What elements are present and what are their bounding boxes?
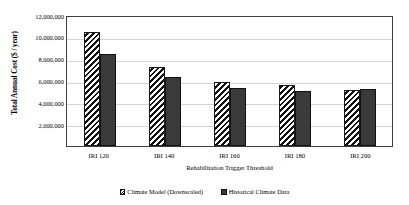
bar-group (197, 17, 262, 146)
legend-swatch-model-icon (120, 189, 126, 195)
bar-model[interactable] (344, 90, 360, 146)
legend-entry[interactable]: Climate Model (Downscaled) (120, 188, 203, 196)
bar-model[interactable] (214, 82, 230, 146)
y-axis-tick-label: 2,000,000 (18, 122, 64, 129)
y-axis-tick-label: 8,000,000 (18, 56, 64, 63)
y-axis-tick-label: 4,000,000 (18, 100, 64, 107)
y-axis-tick-labels: 2,000,0004,000,0006,000,0008,000,00010,0… (18, 12, 64, 148)
y-axis-tick-label: 10,000,000 (18, 34, 64, 41)
bar-chart-figure: Total Annual Cost ($ / year) 2,000,0004,… (0, 0, 409, 205)
x-axis-tick-label: IRI 180 (262, 151, 327, 161)
chart-legend: Climate Model (Downscaled)Historical Cli… (0, 188, 409, 196)
x-axis-tick-label: IRI 160 (197, 151, 262, 161)
bar-group (132, 17, 197, 146)
bar-group (67, 17, 132, 146)
bar-historical[interactable] (230, 88, 246, 146)
x-axis-title: Rehabilitation Trigger Threshold (66, 163, 393, 172)
legend-label: Historical Climate Data (229, 188, 290, 196)
plot-area (66, 16, 393, 147)
bar-group (262, 17, 327, 146)
x-axis-tick-label: IRI 120 (66, 151, 131, 161)
bar-model[interactable] (149, 67, 165, 146)
bar-historical[interactable] (295, 91, 311, 146)
bar-historical[interactable] (100, 54, 116, 146)
bar-historical[interactable] (360, 89, 376, 146)
bar-groups (67, 17, 392, 146)
y-axis-tick-label: 6,000,000 (18, 78, 64, 85)
bar-model[interactable] (279, 85, 295, 146)
bar-historical[interactable] (165, 77, 181, 146)
bar-group (327, 17, 392, 146)
legend-entry[interactable]: Historical Climate Data (221, 188, 289, 196)
legend-label: Climate Model (Downscaled) (127, 188, 203, 196)
bar-model[interactable] (84, 32, 100, 146)
x-axis-tick-labels: IRI 120IRI 140IRI 160IRI 180IRI 200 (66, 151, 393, 161)
legend-swatch-historical-icon (221, 189, 227, 195)
y-axis-tick-label: 12,000,000 (18, 13, 64, 20)
x-axis-tick-label: IRI 140 (131, 151, 196, 161)
x-axis-tick-label: IRI 200 (328, 151, 393, 161)
